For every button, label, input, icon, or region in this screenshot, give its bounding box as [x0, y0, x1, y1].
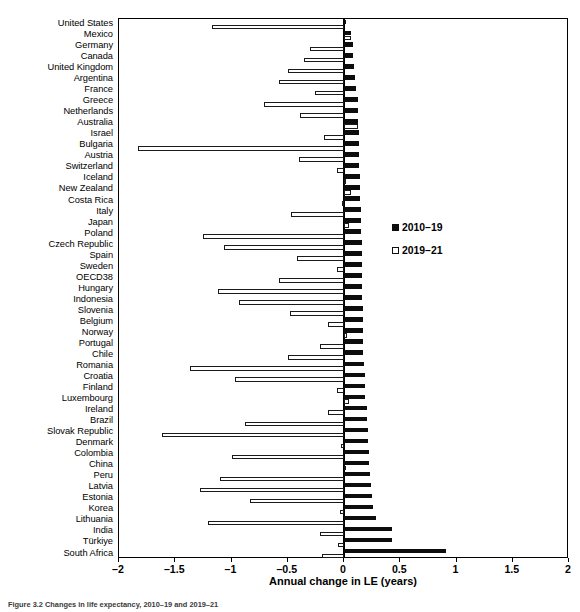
bar-2019-21: [324, 135, 344, 140]
bar-group: [119, 350, 567, 361]
x-tick: [118, 558, 119, 562]
bar-group: [119, 438, 567, 449]
bar-rows: [119, 19, 567, 557]
legend-label-0: 2010–19: [402, 222, 442, 233]
bar-2010-19: [344, 483, 371, 488]
category-label: Ireland: [85, 404, 116, 414]
bar-group: [119, 261, 567, 272]
category-label: India: [93, 525, 116, 535]
legend-item-1: 2019–21: [392, 245, 442, 256]
bar-group: [119, 30, 567, 41]
bar-2010-19: [344, 262, 362, 267]
bar-2010-19: [344, 31, 351, 36]
bar-group: [119, 339, 567, 350]
bar-group: [119, 427, 567, 438]
bar-2019-21: [190, 366, 344, 371]
bar-group: [119, 383, 567, 394]
bar-2010-19: [344, 163, 359, 168]
bar-2019-21: [212, 25, 344, 30]
bar-2010-19: [344, 549, 446, 554]
bar-2019-21: [344, 190, 351, 195]
bar-2010-19: [344, 395, 365, 400]
bar-2019-21: [337, 267, 344, 272]
category-label: Norway: [82, 327, 116, 337]
bar-2019-21: [291, 212, 344, 217]
bar-2010-19: [344, 461, 369, 466]
bar-2019-21: [344, 179, 346, 184]
category-label: Mexico: [84, 29, 116, 39]
bar-group: [119, 328, 567, 339]
bar-2019-21: [288, 355, 344, 360]
bar-2019-21: [288, 69, 344, 74]
bar-2010-19: [344, 141, 359, 146]
bar-2019-21: [200, 488, 344, 493]
bar-2019-21: [337, 388, 344, 393]
bar-2019-21: [337, 168, 344, 173]
bar-group: [119, 361, 567, 372]
bar-2019-21: [203, 234, 344, 239]
bar-2019-21: [162, 433, 344, 438]
bar-2019-21: [279, 80, 344, 85]
category-label: OECD38: [76, 272, 116, 282]
bar-2010-19: [344, 317, 363, 322]
bar-group: [119, 41, 567, 52]
bar-2019-21: [342, 201, 344, 206]
bar-2010-19: [344, 75, 355, 80]
legend-swatch-open-icon: [392, 247, 399, 254]
x-tick: [512, 558, 513, 562]
bar-group: [119, 482, 567, 493]
bar-group: [119, 449, 567, 460]
bar-group: [119, 526, 567, 537]
bar-group: [119, 63, 567, 74]
bar-2010-19: [344, 527, 392, 532]
bar-2019-21: [340, 510, 345, 515]
bar-2010-19: [344, 97, 358, 102]
bar-2019-21: [264, 102, 344, 107]
bar-2010-19: [344, 229, 361, 234]
bar-2019-21: [320, 532, 344, 537]
category-label: Greece: [83, 95, 116, 105]
category-label: Japan: [88, 217, 116, 227]
bar-2010-19: [344, 108, 358, 113]
category-label: Costa Rica: [68, 195, 116, 205]
category-label: Germany: [75, 40, 116, 50]
bar-2010-19: [344, 130, 359, 135]
category-label: France: [84, 84, 116, 94]
category-label: Argentina: [74, 73, 116, 83]
bar-group: [119, 504, 567, 515]
category-label: Indonesia: [73, 294, 116, 304]
bar-2019-21: [138, 146, 344, 151]
x-tick-label: –1.5: [164, 563, 185, 575]
category-label: Sweden: [80, 261, 116, 271]
bar-2019-21: [341, 444, 344, 449]
bar-2019-21: [232, 455, 345, 460]
bar-2019-21: [220, 477, 344, 482]
bar-group: [119, 515, 567, 526]
bar-2019-21: [300, 113, 344, 118]
bar-2010-19: [344, 306, 363, 311]
category-label: Latvia: [88, 481, 116, 491]
bar-group: [119, 228, 567, 239]
figure-container: United StatesMexicoGermanyCanadaUnited K…: [0, 0, 580, 612]
x-tick-label: 0.5: [392, 563, 407, 575]
plot-area: [118, 18, 568, 558]
category-label: South Africa: [63, 548, 116, 558]
category-label: Estonia: [82, 492, 116, 502]
bar-2010-19: [344, 185, 360, 190]
category-label: Slovak Republic: [47, 426, 116, 436]
bar-2019-21: [344, 124, 358, 129]
bar-2019-21: [344, 399, 349, 404]
bar-2019-21: [279, 278, 344, 283]
bar-group: [119, 272, 567, 283]
category-label: Canada: [81, 51, 116, 61]
category-label: Czech Republic: [49, 239, 116, 249]
bar-2019-21: [290, 311, 344, 316]
category-label: Portugal: [79, 338, 116, 348]
x-tick-label: 2: [565, 563, 571, 575]
bar-2019-21: [344, 333, 347, 338]
category-label: Bulgaria: [79, 139, 116, 149]
bar-2010-19: [344, 251, 362, 256]
bar-2010-19: [344, 505, 373, 510]
bar-2010-19: [344, 53, 353, 58]
bar-2010-19: [344, 417, 367, 422]
